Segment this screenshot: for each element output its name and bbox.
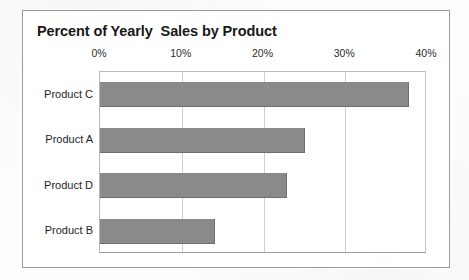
x-tick-label-30: 30% <box>334 47 355 59</box>
y-axis-category-labels: Product CProduct AProduct DProduct B <box>23 71 99 253</box>
bar-row <box>100 209 425 255</box>
bar-product-b[interactable] <box>100 219 215 244</box>
x-axis-tick-labels: 0%10%20%30%40% <box>23 47 451 63</box>
bar-product-c[interactable] <box>100 82 409 107</box>
chart-frame: Percent of Yearly Sales by Product 0%10%… <box>22 10 450 268</box>
bar-row <box>100 163 425 209</box>
chart-title: Percent of Yearly Sales by Product <box>37 23 277 39</box>
x-tick-label-10: 10% <box>170 47 191 59</box>
bar-product-a[interactable] <box>100 128 305 153</box>
category-label-product-c: Product C <box>44 88 93 100</box>
bar-row <box>100 118 425 164</box>
x-tick-label-20: 20% <box>252 47 273 59</box>
x-tick-label-40: 40% <box>415 47 436 59</box>
bars-layer <box>100 72 425 252</box>
bar-row <box>100 72 425 118</box>
bar-product-d[interactable] <box>100 173 287 198</box>
plot-area <box>99 71 426 253</box>
category-label-product-b: Product B <box>45 224 93 236</box>
x-tick-label-0: 0% <box>91 47 106 59</box>
category-label-product-d: Product D <box>44 179 93 191</box>
category-label-product-a: Product A <box>45 133 93 145</box>
